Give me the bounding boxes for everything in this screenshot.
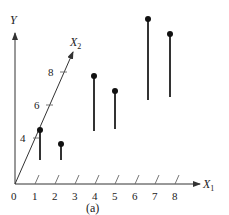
svg-text:7: 7 [152,190,158,202]
stem-1-point [37,127,43,133]
x2-tick-4: 4 [20,132,26,144]
stem-3-point [91,73,97,79]
svg-text:6: 6 [132,190,138,202]
svg-text:8: 8 [172,190,178,202]
stem-6-point [167,31,173,37]
x1-ticks [35,175,179,184]
stem-5-point [145,16,151,22]
svg-text:2: 2 [52,190,58,202]
svg-text:1: 1 [32,190,38,202]
stem-4-point [112,88,118,94]
x1-axis-label: X1 [202,177,214,193]
origin-label: 0 [11,190,17,202]
x2-tick-8: 8 [48,66,54,78]
x2-ticks: 4 6 8 [20,66,67,144]
figure-caption: (a) [86,201,99,215]
stem-3d-diagram: Y X1 X2 4 6 8 0 1 2 3 4 5 6 7 8 [0,0,229,215]
x2-axis-label: X2 [69,35,81,51]
stem-2-point [58,141,64,147]
svg-text:5: 5 [112,190,118,202]
y-axis-label: Y [10,13,18,27]
x2-tick-6: 6 [34,99,40,111]
svg-text:3: 3 [72,190,78,202]
